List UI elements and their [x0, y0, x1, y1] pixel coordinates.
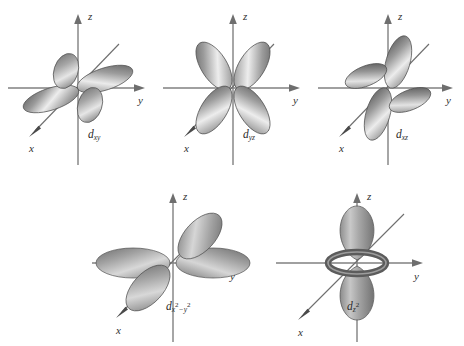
orbital-label-exponent: 2 [356, 301, 360, 309]
x-axis-label: x [28, 142, 34, 154]
orbital-diagram-dxz: z y x dxz [310, 0, 464, 170]
y-axis-label: y [292, 94, 298, 106]
d-orbital-figure: z y x dxy [0, 0, 464, 346]
x-axis-arrowhead [298, 309, 310, 320]
lobe [189, 80, 240, 140]
y-axis-label: y [445, 94, 451, 106]
x-axis-label: x [115, 324, 121, 336]
orbital-svg-dxy: z y x [0, 0, 155, 170]
x-axis-label: x [297, 326, 303, 338]
z-axis-label: z [182, 190, 188, 202]
y-axis-label: y [137, 94, 143, 106]
orbital-label-exponent-y: 2 [187, 301, 191, 309]
axes-dyz: z y x [163, 10, 300, 165]
orbital-label-dxy: dxy [88, 128, 100, 142]
x-axis-arrowhead [29, 126, 41, 137]
z-axis-label: z [242, 10, 248, 22]
axes-dxz: z y x [318, 10, 453, 165]
x-axis-arrowhead [184, 126, 196, 137]
y-axis-arrowhead [442, 84, 453, 92]
x-axis-arrowhead [339, 126, 351, 137]
orbital-diagram-dz2: z y x dz2 [262, 172, 452, 346]
lobe [359, 85, 397, 144]
lobe [189, 36, 240, 96]
x-axis-label: x [183, 142, 189, 154]
z-axis-arrowhead [169, 193, 177, 203]
lobe [227, 36, 278, 96]
y-axis-arrowhead [289, 84, 300, 92]
orbital-label-subscript: yz [249, 133, 255, 142]
y-axis-label: y [413, 270, 419, 282]
orbital-diagram-dyz: z y x dyz [155, 0, 310, 170]
orbital-svg-dx2-y2: z y x [78, 172, 268, 346]
orbital-svg-dz2: z y x [262, 172, 452, 346]
x-axis-label: x [338, 142, 344, 154]
z-axis-label: z [366, 190, 372, 202]
orbital-label-subscript: xy [94, 133, 101, 142]
orbital-label-dz2: dz2 [347, 300, 359, 314]
y-axis-arrowhead [134, 84, 145, 92]
orbital-diagram-dx2-y2: z y x dx2−y2 [78, 172, 268, 346]
orbital-svg-dyz: z y x [155, 0, 310, 170]
orbital-label-dx2-y2: dx2−y2 [166, 300, 191, 314]
orbital-label-dxz: dxz [396, 128, 408, 142]
z-axis-label: z [397, 10, 403, 22]
z-axis-arrowhead [384, 14, 392, 24]
z-axis-arrowhead [353, 193, 361, 203]
y-axis-arrowhead [412, 259, 423, 267]
orbital-diagram-dxy: z y x dxy [0, 0, 155, 170]
orbital-label-subscript: xz [402, 133, 408, 142]
lobe [20, 80, 82, 119]
orbital-label-dyz: dyz [243, 128, 255, 142]
z-axis-label: z [87, 10, 93, 22]
z-axis-arrowhead [74, 14, 82, 24]
orbital-svg-dxz: z y x [310, 0, 464, 170]
z-axis-arrowhead [229, 14, 237, 24]
x-axis-arrowhead [116, 307, 128, 318]
